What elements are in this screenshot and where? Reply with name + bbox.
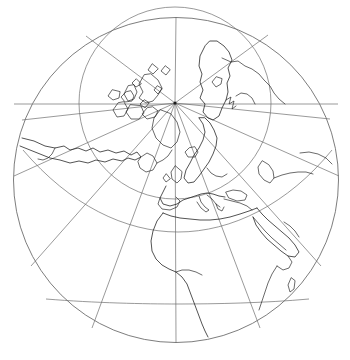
meridian-0-icon	[175, 103, 176, 343]
coastline-north-africa	[163, 208, 257, 220]
meridian-030-icon	[175, 103, 260, 328]
meridian-090-icon	[175, 103, 339, 176]
map-canvas	[0, 0, 350, 360]
coastline-prince-patrick	[108, 90, 120, 100]
coastline-black-sea	[226, 190, 247, 201]
meridian-270-icon	[14, 103, 175, 176]
meridian-lines	[14, 17, 339, 343]
coastline-labrador	[157, 150, 172, 163]
meridian-150-icon	[175, 35, 268, 103]
coastline-axel-heiberg	[124, 85, 137, 101]
coastline-italy	[197, 196, 209, 212]
coastline-greenland-east-detail	[226, 97, 236, 109]
coastline-ireland	[163, 174, 170, 182]
coastline-africa	[151, 213, 208, 337]
parallel-30n-icon	[23, 150, 332, 232]
coastline-asia-east-edge	[300, 152, 332, 164]
coastline-madagascar	[288, 278, 295, 292]
north-pole-marker	[173, 101, 176, 104]
coastline-arctic-islets-c	[161, 66, 170, 75]
coastline-horn-of-africa	[277, 256, 292, 270]
meridian-060-icon	[175, 103, 321, 266]
coastline-caspian-sea	[258, 161, 274, 183]
meridian-120-icon	[175, 103, 330, 119]
polar-map-figure	[0, 0, 350, 360]
coastline-baltic-sea	[207, 168, 227, 177]
coastline-gulf-of-guinea	[176, 270, 202, 275]
coastline-red-sea	[253, 217, 286, 250]
coastline-arctic-islets-b	[148, 64, 158, 74]
coastline-svalbard	[212, 77, 222, 87]
meridian-210-icon	[86, 36, 175, 103]
coastline-east-africa	[259, 266, 277, 310]
coastline-novaya-zemlya	[236, 93, 255, 104]
coastline-ellesmere	[139, 74, 162, 103]
meridian-180-icon	[175, 17, 176, 103]
coastline-scandinavia	[184, 118, 217, 183]
meridian-300-icon	[31, 103, 175, 266]
coastline-hudson-bay	[138, 153, 157, 172]
parallel-equator-icon	[46, 299, 309, 304]
coastline-siberia-north	[222, 58, 285, 104]
meridian-330-icon	[92, 103, 175, 328]
coastline-persian-gulf	[284, 222, 299, 237]
coastline-baffin-island	[152, 110, 180, 148]
coastline-great-britain	[171, 166, 182, 183]
graticule-group	[14, 7, 340, 343]
